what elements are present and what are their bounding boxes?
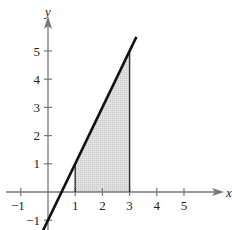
y-tick-label: −1	[26, 213, 40, 228]
x-axis-label: x	[225, 185, 232, 200]
y-tick-label: 1	[34, 156, 41, 171]
x-tick-label: 1	[72, 198, 79, 213]
y-tick-label: 3	[34, 100, 41, 115]
x-tick-label: 2	[99, 198, 106, 213]
plot-area: −112345−112345xy	[0, 0, 232, 230]
x-tick-label: −1	[11, 198, 25, 213]
y-tick-label: 5	[34, 44, 41, 59]
x-tick-label: 4	[154, 198, 161, 213]
y-tick-label: 4	[34, 72, 41, 87]
x-tick-label: 3	[126, 198, 133, 213]
shaded-region	[75, 51, 129, 192]
y-axis-label: y	[43, 4, 51, 19]
chart: −112345−112345xy	[0, 0, 232, 230]
y-tick-label: 2	[34, 128, 41, 143]
x-tick-label: 5	[181, 198, 188, 213]
